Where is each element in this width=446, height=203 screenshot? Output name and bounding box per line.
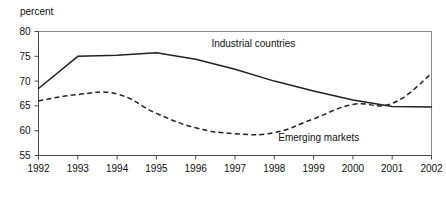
x-axis-ticks: 1992199319941995199619971998199920002001… [27,156,443,174]
x-tick-label: 2002 [420,163,443,174]
y-tick-label: 60 [19,125,31,136]
x-tick-label: 1995 [145,163,168,174]
y-axis-unit-label: percent [20,6,53,18]
y-axis-ticks: 556065707580 [19,26,38,161]
x-tick-label: 1998 [263,163,286,174]
x-tick-label: 2001 [381,163,404,174]
plot-frame [39,32,432,156]
x-tick-label: 1993 [67,163,90,174]
line-chart-plot: 556065707580 199219931994199519961997199… [0,0,446,203]
x-tick-label: 2000 [342,163,365,174]
chart-figure: percent 556065707580 1992199319941995199… [0,0,446,203]
x-tick-label: 1997 [224,163,247,174]
y-tick-label: 70 [19,76,31,87]
y-tick-label: 80 [19,26,31,37]
y-tick-label: 75 [19,51,31,62]
x-tick-label: 1992 [27,163,50,174]
x-tick-label: 1996 [185,163,208,174]
y-tick-label: 55 [19,150,31,161]
y-tick-label: 65 [19,100,31,111]
series-line-emerging-markets [39,74,432,135]
annotation-industrial-countries: Industrial countries [211,38,295,49]
series-line-industrial-countries [39,53,432,107]
x-tick-label: 1994 [106,163,129,174]
x-tick-label: 1999 [302,163,325,174]
annotation-emerging-markets: Emerging markets [278,132,359,143]
